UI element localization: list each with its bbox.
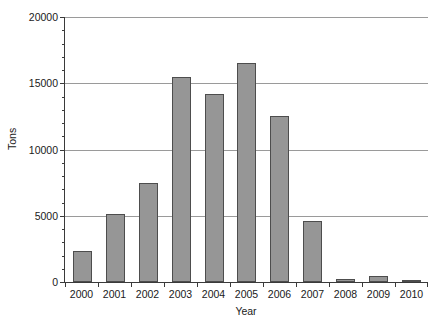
- y-tick-label: 5000: [35, 211, 58, 222]
- x-tick-slot: 2000: [65, 283, 98, 305]
- x-tick-label: 2002: [131, 289, 164, 300]
- x-tick-mark: [395, 283, 396, 287]
- bar-slot: [395, 17, 428, 282]
- x-tick-label: 2004: [197, 289, 230, 300]
- bar-2006[interactable]: [270, 116, 289, 282]
- y-tick-minor: [62, 229, 65, 230]
- x-tick-label: 2007: [296, 289, 329, 300]
- x-tick-slot: 2005: [230, 283, 263, 305]
- x-axis-title: Year: [64, 305, 428, 317]
- x-tick-slot: 2002: [131, 283, 164, 305]
- y-tick-minor: [62, 70, 65, 71]
- bar-2007[interactable]: [303, 221, 322, 282]
- x-tick-label: 2009: [362, 289, 395, 300]
- x-tick-mark: [329, 283, 330, 287]
- x-tick-slot: 2004: [197, 283, 230, 305]
- x-tick-label: 2003: [164, 289, 197, 300]
- x-tick-slot: 2007: [296, 283, 329, 305]
- y-tick-minor: [62, 57, 65, 58]
- y-tick-minor: [62, 110, 65, 111]
- bar-2010[interactable]: [402, 280, 421, 282]
- y-tick-minor: [62, 123, 65, 124]
- bar-slot: [132, 17, 165, 282]
- y-tick-minor: [62, 163, 65, 164]
- x-tick-mark: [164, 283, 165, 287]
- bar-slot: [198, 17, 231, 282]
- y-tick-minor: [62, 269, 65, 270]
- bar-2005[interactable]: [237, 63, 256, 282]
- bar-2009[interactable]: [369, 276, 388, 282]
- y-tick-minor: [62, 203, 65, 204]
- y-axis-title: Tons: [6, 128, 18, 150]
- x-tick-label: 2000: [65, 289, 98, 300]
- bar-slot: [263, 17, 296, 282]
- y-tick-minor: [62, 242, 65, 243]
- x-tick-label: 2008: [329, 289, 362, 300]
- y-tick-major: [60, 216, 65, 217]
- y-tick-label: 15000: [29, 78, 58, 89]
- x-tick-label: 2001: [98, 289, 131, 300]
- x-tick-mark: [230, 283, 231, 287]
- x-tick-mark: [131, 283, 132, 287]
- x-tick-mark-end: [427, 283, 428, 287]
- bar-slot: [296, 17, 329, 282]
- x-tick-mark: [98, 283, 99, 287]
- y-tick-major: [60, 150, 65, 151]
- bar-2008[interactable]: [336, 279, 355, 282]
- bar-slot: [329, 17, 362, 282]
- y-tick-major: [60, 17, 65, 18]
- x-tick-slot: 2001: [98, 283, 131, 305]
- bar-slot: [66, 17, 99, 282]
- x-tick-slot: 2008: [329, 283, 362, 305]
- x-tick-mark: [263, 283, 264, 287]
- bar-2003[interactable]: [172, 77, 191, 282]
- bar-slot: [231, 17, 264, 282]
- y-tick-major: [60, 83, 65, 84]
- bar-slot: [165, 17, 198, 282]
- y-tick-label: 20000: [29, 12, 58, 23]
- bar-chart: Tons 05000100001500020000 20002001200220…: [0, 0, 441, 327]
- y-tick-minor: [62, 189, 65, 190]
- x-tick-mark: [197, 283, 198, 287]
- y-tick-label: 10000: [29, 144, 58, 155]
- bar-2002[interactable]: [139, 183, 158, 282]
- y-tick-minor: [62, 30, 65, 31]
- x-tick-label: 2005: [230, 289, 263, 300]
- bar-2000[interactable]: [73, 251, 92, 282]
- y-tick-minor: [62, 176, 65, 177]
- y-tick-minor: [62, 256, 65, 257]
- plot-area: 05000100001500020000: [64, 17, 428, 283]
- x-tick-label: 2006: [263, 289, 296, 300]
- x-tick-label: 2010: [395, 289, 428, 300]
- x-tick-mark: [362, 283, 363, 287]
- x-tick-slot: 2010: [395, 283, 428, 305]
- y-tick-label: 0: [52, 277, 58, 288]
- bar-series: [66, 17, 428, 282]
- x-tick-mark: [65, 283, 66, 287]
- y-tick-minor: [62, 97, 65, 98]
- x-tick-slot: 2009: [362, 283, 395, 305]
- y-tick-minor: [62, 136, 65, 137]
- x-axis-ticks: 2000200120022003200420052006200720082009…: [65, 283, 428, 305]
- bar-slot: [362, 17, 395, 282]
- bar-slot: [99, 17, 132, 282]
- bar-2001[interactable]: [106, 214, 125, 282]
- x-tick-mark: [296, 283, 297, 287]
- y-tick-minor: [62, 44, 65, 45]
- x-tick-slot: 2003: [164, 283, 197, 305]
- bar-2004[interactable]: [205, 94, 224, 282]
- x-tick-slot: 2006: [263, 283, 296, 305]
